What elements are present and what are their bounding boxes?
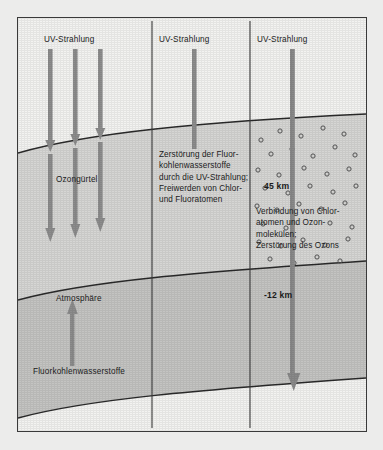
altitude-label-upper: 45 km xyxy=(264,181,289,191)
diagram-frame: UV-Strahlung UV-Strahlung UV-Strahlung O… xyxy=(17,17,367,432)
atmosphere-label: Atmosphäre xyxy=(56,295,102,303)
diagram-canvas: UV-Strahlung UV-Strahlung UV-Strahlung O… xyxy=(0,0,383,450)
altitude-label-lower: -12 km xyxy=(264,290,292,300)
uv-arrow-middle xyxy=(192,49,197,149)
cfc-label: Fluorkohlenwasserstoffe xyxy=(33,368,125,376)
middle-text-block: Zerstörung der Fluor- kohlenwasserstoffe… xyxy=(159,149,251,205)
uv-label-left: UV-Strahlung xyxy=(44,35,95,44)
ozone-belt-label: Ozongürtel xyxy=(56,176,98,184)
uv-label-middle: UV-Strahlung xyxy=(159,35,210,44)
right-text-block: Verbindung von Chlor- atomen und Ozon- m… xyxy=(256,206,352,251)
uv-label-right: UV-Strahlung xyxy=(257,35,308,44)
